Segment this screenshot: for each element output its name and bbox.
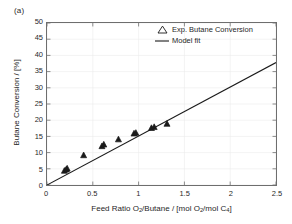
x-axis-title-part-a: Feed Ratio O [91, 204, 139, 213]
y-tick-label: 10 [3, 149, 43, 157]
plot-canvas [47, 23, 276, 185]
x-axis-title-part-d: ] [229, 204, 231, 213]
y-tick-label: 30 [3, 84, 43, 92]
x-tick-label: 2 [211, 190, 251, 198]
x-axis-title-part-c: /mol C [203, 204, 226, 213]
y-tick-label: 15 [3, 133, 43, 141]
y-tick-label: 25 [3, 100, 43, 108]
legend-entry-fit: Model fit [152, 35, 276, 46]
y-tick-label: 5 [3, 166, 43, 174]
y-axis-title-text: Butane Conversion / [%] [12, 59, 21, 145]
x-axis-tick-labels: 00.511.522.5 [46, 190, 277, 202]
y-tick-label: 45 [3, 35, 43, 43]
x-axis-title-part-b: /Butane / [mol O [142, 204, 200, 213]
legend: Exp. Butane Conversion Model fit [152, 24, 276, 46]
legend-label-exp: Exp. Butane Conversion [172, 26, 253, 34]
x-axis-title: Feed Ratio O2/Butane / [mol O2/mol C4] [46, 204, 277, 213]
line-glyph [154, 38, 170, 44]
y-axis-title: Butane Conversion / [%] [12, 21, 21, 185]
x-tick-label: 1 [118, 190, 158, 198]
triangle-marker-icon [152, 24, 172, 35]
legend-entry-exp: Exp. Butane Conversion [152, 24, 276, 35]
model-fit-line [47, 63, 276, 185]
y-tick-label: 50 [3, 18, 43, 26]
x-tick-label: 1.5 [165, 190, 205, 198]
gridlines [47, 23, 276, 185]
y-tick-label: 0 [3, 182, 43, 190]
y-axis-tick-labels: 05101520253035404550 [0, 22, 43, 186]
line-swatch-icon [152, 35, 172, 46]
triangle-up-glyph [157, 25, 168, 34]
experimental-data-points [61, 121, 170, 174]
x-tick-label: 2.5 [257, 190, 292, 198]
y-tick-label: 35 [3, 67, 43, 75]
legend-label-fit: Model fit [172, 37, 200, 45]
x-tick-label: 0 [26, 190, 66, 198]
y-tick-label: 20 [3, 117, 43, 125]
y-tick-label: 40 [3, 51, 43, 59]
panel-label: (a) [14, 6, 24, 15]
plot-area [46, 22, 277, 186]
x-tick-label: 0.5 [72, 190, 112, 198]
figure-panel-a: (a) 05101520253035404550 00.511.522.5 Fe… [0, 0, 292, 224]
